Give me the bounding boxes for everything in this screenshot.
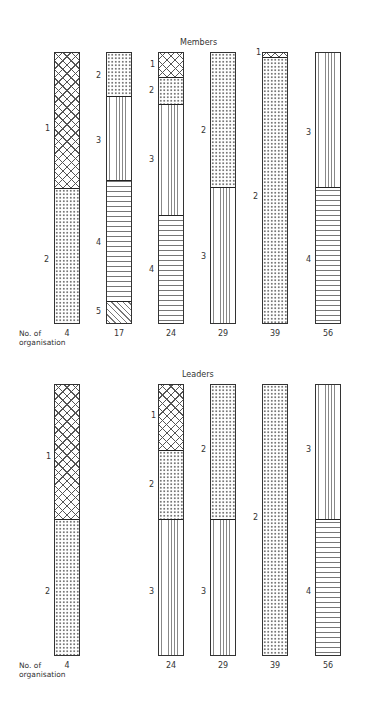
leaders-title: Leaders: [182, 370, 214, 379]
segment-label: 1: [151, 411, 156, 420]
segment-label: 1: [46, 452, 51, 461]
segment-2: [55, 519, 79, 656]
leaders-bar-4: [54, 384, 80, 656]
x-tick: 4: [54, 661, 80, 670]
segment-label: 2: [149, 480, 154, 489]
leaders-bar-29: [210, 384, 236, 656]
segment-3: [316, 385, 340, 519]
segment-2: [263, 385, 287, 656]
leaders-chart: Leaders 1 2 1 2 3 2 3 2 3 4 No. of organ…: [0, 0, 366, 711]
segment-2: [211, 385, 235, 519]
segment-label: 2: [253, 513, 258, 522]
segment-label: 3: [306, 445, 311, 454]
segment-label: 3: [201, 587, 206, 596]
segment-label: 2: [201, 445, 206, 454]
leaders-bar-39: [262, 384, 288, 656]
segment-label: 2: [45, 587, 50, 596]
segment-1: [55, 385, 79, 519]
x-tick: 39: [262, 661, 288, 670]
x-tick: 24: [158, 661, 184, 670]
segment-4: [316, 519, 340, 656]
leaders-bar-24: [158, 384, 184, 656]
x-tick: 56: [315, 661, 341, 670]
leaders-bar-56: [315, 384, 341, 656]
segment-3: [211, 519, 235, 656]
segment-1: [159, 385, 183, 450]
x-tick: 29: [210, 661, 236, 670]
segment-label: 3: [149, 587, 154, 596]
segment-label: 4: [306, 587, 311, 596]
segment-3: [159, 519, 183, 656]
segment-2: [159, 450, 183, 519]
